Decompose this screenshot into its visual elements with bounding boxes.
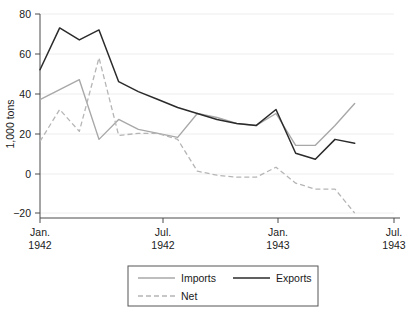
x-tick-label-jan-1943-month: Jan.: [268, 226, 288, 238]
x-tick-label-jul-1942-month: Jul.: [155, 226, 171, 238]
y-tick-label-0: 0: [25, 168, 31, 180]
data-series-group: [40, 28, 355, 213]
y-tick-label-20: 20: [19, 128, 31, 140]
chart-canvas: 80 60 40 20 0 −20 1,000 tons Jan. 1942 J…: [0, 0, 415, 313]
y-tick-label-80: 80: [19, 8, 31, 20]
x-tick-label-jul-1943-month: Jul.: [386, 226, 402, 238]
y-tick-label-minus20: −20: [13, 207, 31, 219]
line-chart-figure: 80 60 40 20 0 −20 1,000 tons Jan. 1942 J…: [0, 0, 415, 313]
chart-legend: Imports Exports Net: [128, 266, 318, 306]
series-line-imports: [40, 80, 355, 146]
x-tick-label-jul-1943-year: 1943: [382, 239, 406, 251]
x-axis: Jan. 1942 Jul. 1942 Jan. 1943 Jul. 1943: [28, 218, 406, 251]
y-tick-label-60: 60: [19, 48, 31, 60]
legend-label-exports: Exports: [276, 272, 312, 284]
legend-label-imports: Imports: [181, 272, 216, 284]
x-tick-label-jul-1942-year: 1942: [151, 239, 175, 251]
gridlines: [40, 14, 394, 213]
series-line-net: [40, 58, 355, 213]
y-axis: 80 60 40 20 0 −20 1,000 tons: [4, 8, 40, 219]
x-tick-label-jan-1943-year: 1943: [266, 239, 290, 251]
y-tick-label-40: 40: [19, 88, 31, 100]
x-tick-label-jan-1942-year: 1942: [28, 239, 52, 251]
y-axis-title: 1,000 tons: [4, 99, 16, 148]
legend-label-net: Net: [181, 290, 197, 302]
x-tick-label-jan-1942-month: Jan.: [30, 226, 50, 238]
